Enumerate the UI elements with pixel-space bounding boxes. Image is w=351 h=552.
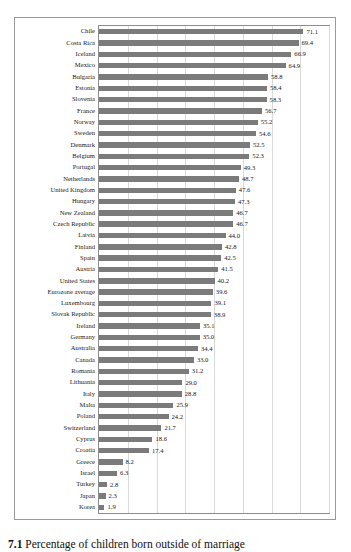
category-label: Norway	[74, 119, 95, 126]
bar-value-label: 29.0	[185, 379, 197, 386]
bar-row: Korea1.9	[99, 502, 329, 513]
bar-row: Italy28.8	[99, 388, 329, 399]
category-label: New Zealand	[60, 210, 95, 217]
bar-value-label: 17.4	[152, 447, 164, 454]
bar-row: Netherlands48.7	[99, 173, 329, 184]
bar-row: Cyprus18.6	[99, 434, 329, 445]
bar-row: Ireland35.1	[99, 320, 329, 331]
category-label: Cyprus	[76, 436, 95, 443]
bar-row: Switzerland21.7	[99, 422, 329, 433]
bar: 6.3	[99, 471, 117, 476]
bar: 2.8	[99, 482, 107, 487]
bar-value-label: 69.4	[302, 40, 314, 47]
bar-row: Czech Republic46.7	[99, 219, 329, 230]
bar: 42.8	[99, 244, 222, 249]
bar-row: Latvia44.0	[99, 230, 329, 241]
category-label: Romania	[71, 368, 95, 375]
bar-value-label: 41.5	[221, 266, 233, 273]
bar: 49.3	[99, 165, 241, 170]
category-label: Switzerland	[64, 425, 96, 432]
bar-value-label: 35.1	[203, 323, 215, 330]
bar-row: Sweden54.6	[99, 128, 329, 139]
bar-row: Chile71.1	[99, 26, 329, 37]
bar: 40.2	[99, 278, 215, 283]
category-label: Slovak Republic	[51, 311, 95, 318]
plot-area: Chile71.1Costa Rica69.4Iceland66.9Mexico…	[98, 25, 330, 514]
category-label: Italy	[83, 391, 95, 398]
bar-value-label: 39.1	[214, 300, 226, 307]
bar: 44.0	[99, 233, 226, 238]
bar-row: Turkey2.8	[99, 479, 329, 490]
bar: 33.0	[99, 357, 194, 362]
bar: 42.5	[99, 255, 221, 260]
bar-row: Slovenia58.3	[99, 94, 329, 105]
bar-value-label: 28.8	[185, 391, 197, 398]
category-label: Chile	[81, 28, 95, 35]
bar-value-label: 2.8	[110, 481, 118, 488]
bar-row: Malta25.9	[99, 400, 329, 411]
category-label: United Kingdom	[50, 187, 95, 194]
category-label: Czech Republic	[53, 221, 95, 228]
bar: 28.8	[99, 391, 182, 396]
bar-row: Poland24.2	[99, 411, 329, 422]
bar-value-label: 52.3	[252, 153, 264, 160]
bar-row: Luxembourg39.1	[99, 298, 329, 309]
category-label: Mexico	[75, 62, 95, 69]
bar-row: Eurozone average39.6	[99, 286, 329, 297]
bar-row: Denmark52.5	[99, 139, 329, 150]
bar-value-label: 24.2	[172, 413, 184, 420]
bar-value-label: 55.2	[261, 119, 273, 126]
bar: 18.6	[99, 437, 152, 442]
bar-value-label: 34.4	[201, 345, 213, 352]
category-label: Iceland	[76, 51, 95, 58]
category-label: Korea	[79, 504, 95, 511]
category-label: Ireland	[76, 323, 95, 330]
bar: 34.4	[99, 346, 198, 351]
bar-row: Costa Rica69.4	[99, 37, 329, 48]
bar-row: Finland42.8	[99, 241, 329, 252]
category-label: Latvia	[78, 232, 95, 239]
category-label: Eurozone average	[48, 289, 95, 296]
category-label: Japan	[80, 493, 95, 500]
bar-row: Hungary47.3	[99, 196, 329, 207]
bar-value-label: 49.3	[244, 164, 256, 171]
caption-number: 7.1	[8, 538, 22, 550]
category-label: Australia	[71, 345, 95, 352]
bar: 47.6	[99, 188, 236, 193]
chart-frame: Chile71.1Costa Rica69.4Iceland66.9Mexico…	[14, 17, 336, 520]
bar: 54.6	[99, 131, 256, 136]
category-label: Lithuania	[70, 379, 95, 386]
bar: 24.2	[99, 414, 169, 419]
bar-row: United Kingdom47.6	[99, 185, 329, 196]
bar-value-label: 47.6	[239, 187, 251, 194]
category-label: Poland	[77, 413, 95, 420]
category-label: Sweden	[74, 130, 95, 137]
category-label: Spain	[80, 255, 95, 262]
bar-row: Israel6.3	[99, 468, 329, 479]
category-label: Israel	[80, 470, 95, 477]
bar: 17.4	[99, 448, 149, 453]
bar-value-label: 39.6	[216, 289, 228, 296]
bar-row: Bulgaria58.8	[99, 71, 329, 82]
bar-value-label: 42.5	[224, 255, 236, 262]
bar: 71.1	[99, 29, 303, 34]
bar-value-label: 58.8	[271, 74, 283, 81]
bar-rows: Chile71.1Costa Rica69.4Iceland66.9Mexico…	[99, 26, 329, 513]
bar-value-label: 44.0	[229, 232, 241, 239]
bar-value-label: 40.2	[218, 278, 230, 285]
bar-row: Greece8.2	[99, 456, 329, 467]
category-label: Belgium	[72, 153, 95, 160]
bar-value-label: 46.7	[236, 221, 248, 228]
bar-row: Canada33.0	[99, 354, 329, 365]
bar-row: Austria41.5	[99, 264, 329, 275]
bar: 48.7	[99, 176, 239, 181]
category-label: Bulgaria	[72, 74, 95, 81]
bar-value-label: 52.5	[253, 142, 265, 149]
bar-value-label: 58.4	[270, 85, 282, 92]
gridline	[329, 26, 330, 513]
bar: 52.5	[99, 142, 250, 147]
bar-row: United States40.2	[99, 275, 329, 286]
bar-value-label: 64.9	[289, 62, 301, 69]
bar: 46.7	[99, 221, 233, 226]
category-label: Austria	[76, 266, 95, 273]
